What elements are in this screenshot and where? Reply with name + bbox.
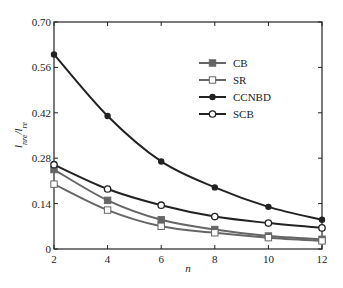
x-tick-label: 10 (263, 253, 275, 265)
legend-label: CCNBD (233, 91, 271, 103)
y-tick-label: 0.28 (32, 152, 52, 164)
plot-axes: 2468101200.140.280.420.560.70 (32, 16, 328, 265)
y-tick-label: 0.42 (32, 107, 51, 119)
svg-text:lnre/lre: lnre/lre (12, 122, 29, 148)
legend-label: CB (233, 57, 248, 69)
line-chart: 2468101200.140.280.420.560.70 CBSRCCNBDS… (0, 0, 343, 288)
legend-item-scb: SCB (199, 108, 254, 120)
legend-label: SCB (233, 108, 254, 120)
legend-item-sr: SR (199, 74, 247, 86)
legend: CBSRCCNBDSCB (199, 57, 271, 120)
legend-item-cb: CB (199, 57, 248, 69)
legend-item-ccnbd: CCNBD (199, 91, 271, 103)
x-tick-label: 2 (51, 253, 57, 265)
plot-frame (54, 22, 322, 249)
plot-series (51, 51, 325, 244)
y-tick-label: 0.56 (32, 61, 52, 73)
y-tick-label: 0 (46, 243, 52, 255)
x-tick-label: 4 (105, 253, 111, 265)
series-scb (51, 161, 325, 231)
x-tick-label: 12 (317, 253, 328, 265)
series-ccnbd (51, 51, 325, 223)
x-tick-label: 6 (158, 253, 164, 265)
y-axis-label: lnre/lre (12, 122, 29, 148)
y-tick-label: 0.70 (32, 16, 52, 28)
x-axis-label: n (185, 262, 191, 274)
legend-label: SR (233, 74, 247, 86)
y-tick-label: 0.14 (32, 198, 52, 210)
x-tick-label: 8 (212, 253, 218, 265)
